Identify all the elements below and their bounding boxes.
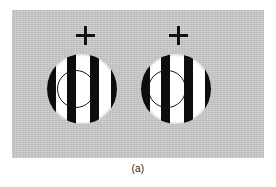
grating-disk-right xyxy=(141,54,211,124)
grating-bar xyxy=(205,54,211,124)
figure-caption: (a) xyxy=(0,163,276,174)
fixation-cross-left xyxy=(76,26,95,45)
inner-circle-outline-right xyxy=(148,70,186,108)
grating-bar xyxy=(47,54,56,124)
grating-bar xyxy=(111,54,117,124)
figure-root: (a) xyxy=(0,0,276,187)
fixation-cross-vertical-bar xyxy=(84,26,87,45)
fixation-cross-vertical-bar xyxy=(177,26,180,45)
inner-circle-outline-left xyxy=(57,70,95,108)
fixation-cross-right xyxy=(169,26,188,45)
grating-disk-left xyxy=(47,54,117,124)
